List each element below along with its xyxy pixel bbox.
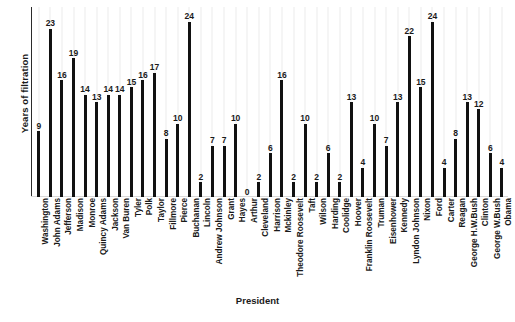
bar[interactable]: 8 — [454, 139, 457, 197]
bar[interactable]: 13 — [466, 102, 469, 197]
x-tick-slot: Mckinley — [276, 198, 288, 280]
bar[interactable]: 10 — [234, 124, 237, 197]
bar-slot: 10 — [172, 7, 184, 197]
bar[interactable]: 7 — [223, 146, 226, 197]
bar[interactable]: 23 — [49, 29, 52, 197]
bar-value-label: 15 — [127, 78, 136, 87]
bar[interactable]: 4 — [443, 168, 446, 197]
bar-slot: 13 — [346, 7, 358, 197]
bar[interactable]: 8 — [165, 139, 168, 197]
bar[interactable]: 4 — [500, 168, 503, 197]
bar-slot: 10 — [369, 7, 381, 197]
bar[interactable]: 2 — [338, 182, 341, 197]
bar[interactable]: 4 — [361, 168, 364, 197]
bar[interactable]: 9 — [37, 131, 40, 197]
x-tick-slot: Van Buren — [114, 198, 126, 280]
bar[interactable]: 6 — [327, 153, 330, 197]
bar-slot: 17 — [149, 7, 161, 197]
bar[interactable]: 13 — [95, 102, 98, 197]
bar-slot: 2 — [311, 7, 323, 197]
bar[interactable]: 12 — [477, 109, 480, 197]
bar-slot: 22 — [404, 7, 416, 197]
bar-value-label: 6 — [326, 144, 331, 153]
bar-value-label: 8 — [453, 129, 458, 138]
bar[interactable]: 22 — [408, 36, 411, 197]
bar-value-label: 17 — [150, 63, 159, 72]
x-tick-slot: Quincy Adams — [91, 198, 103, 280]
bar[interactable]: 6 — [269, 153, 272, 197]
bar-value-label: 22 — [405, 27, 414, 36]
bar[interactable]: 10 — [176, 124, 179, 197]
x-tick-slot: Fillmore — [160, 198, 172, 280]
bar-value-label: 24 — [428, 12, 437, 21]
x-tick-slot: Franklin Roosevelt — [357, 198, 369, 280]
x-tick-slot: Lincoln — [195, 198, 207, 280]
y-axis-line — [31, 7, 32, 197]
bar[interactable]: 15 — [130, 87, 133, 197]
x-tick-slot: Eisenhower — [380, 198, 392, 280]
bar[interactable]: 6 — [489, 153, 492, 197]
bar[interactable]: 19 — [72, 58, 75, 197]
bar-slot: 4 — [357, 7, 369, 197]
bar[interactable]: 2 — [315, 182, 318, 197]
x-tick-slot: George W.Bush — [485, 198, 497, 280]
x-tick-slot: Buchanan — [184, 198, 196, 280]
bar-value-label: 7 — [222, 136, 227, 145]
bar[interactable]: 14 — [118, 95, 121, 197]
x-tick-slot: Kennedy — [392, 198, 404, 280]
x-tick-slot: Hayes — [230, 198, 242, 280]
bar-value-label: 14 — [80, 85, 89, 94]
bar-slot: 16 — [137, 7, 149, 197]
bar[interactable]: 7 — [211, 146, 214, 197]
bar-value-label: 10 — [173, 114, 182, 123]
bar-value-label: 14 — [115, 85, 124, 94]
bar[interactable]: 16 — [60, 80, 63, 197]
x-tick-slot: Harrison — [265, 198, 277, 280]
x-tick-slot: Hoover — [346, 198, 358, 280]
bar-value-label: 2 — [256, 173, 261, 182]
x-tick-slot: Arthur — [241, 198, 253, 280]
bar-slot: 7 — [207, 7, 219, 197]
bar-slot: 15 — [126, 7, 138, 197]
x-tick-slot: Harding — [322, 198, 334, 280]
bar-value-label: 7 — [210, 136, 215, 145]
bar-value-label: 13 — [462, 93, 471, 102]
bar-value-label: 2 — [291, 173, 296, 182]
bar-slot: 7 — [380, 7, 392, 197]
bar-slot: 4 — [438, 7, 450, 197]
bar[interactable]: 7 — [385, 146, 388, 197]
bar[interactable]: 14 — [107, 95, 110, 197]
y-axis-title: Years of filtration — [19, 24, 30, 164]
bar-slot: 14 — [102, 7, 114, 197]
bar[interactable]: 2 — [199, 182, 202, 197]
bar[interactable]: 13 — [350, 102, 353, 197]
bar[interactable]: 10 — [373, 124, 376, 197]
bar-value-label: 12 — [474, 100, 483, 109]
bar-slot: 24 — [427, 7, 439, 197]
bar[interactable]: 16 — [280, 80, 283, 197]
bar-value-label: 4 — [500, 158, 505, 167]
x-tick-slot: Jackson — [102, 198, 114, 280]
bar-slot: 13 — [392, 7, 404, 197]
gridline — [258, 7, 259, 197]
x-tick-slot: Grant — [218, 198, 230, 280]
bar-value-label: 23 — [46, 19, 55, 28]
bar-slot: 9 — [33, 7, 45, 197]
x-tick-slot: Jefferson — [56, 198, 68, 280]
bar-slot: 2 — [253, 7, 265, 197]
bar[interactable]: 24 — [431, 22, 434, 197]
bar[interactable]: 15 — [419, 87, 422, 197]
bar[interactable]: 17 — [153, 73, 156, 197]
bar[interactable]: 16 — [141, 80, 144, 197]
bar[interactable]: 2 — [257, 182, 260, 197]
bar[interactable]: 2 — [292, 182, 295, 197]
bar-slot: 14 — [79, 7, 91, 197]
bar[interactable]: 13 — [396, 102, 399, 197]
bar-value-label: 2 — [314, 173, 319, 182]
bar[interactable]: 24 — [188, 22, 191, 197]
bar[interactable]: 10 — [304, 124, 307, 197]
bar[interactable]: 14 — [84, 95, 87, 197]
bar-value-label: 24 — [185, 12, 194, 21]
gridline — [200, 7, 201, 197]
bar-slot: 6 — [265, 7, 277, 197]
